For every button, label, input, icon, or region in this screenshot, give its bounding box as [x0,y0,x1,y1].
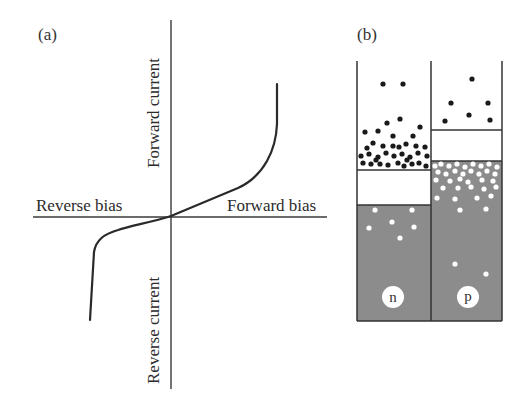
panel-a-label: (a) [38,25,57,44]
n-electrons [358,81,429,168]
forward-bias-label: Forward bias [227,196,316,215]
reverse-bias-label: Reverse bias [36,196,122,215]
panel-b-band-diagram: (b) [357,25,502,321]
figure: (a) Reverse bias Forward bias Forward cu… [0,0,526,402]
reverse-current-label: Reverse current [144,277,163,384]
panel-a-iv-curve: (a) Reverse bias Forward bias Forward cu… [33,20,327,389]
panel-b-label: (b) [357,25,377,44]
p-electrons [442,76,492,123]
n-region-label: n [389,289,397,305]
forward-current-label: Forward current [144,58,163,168]
p-region-label: p [464,288,472,304]
n-region-badge: n [382,286,404,308]
p-region-badge: p [457,286,479,308]
